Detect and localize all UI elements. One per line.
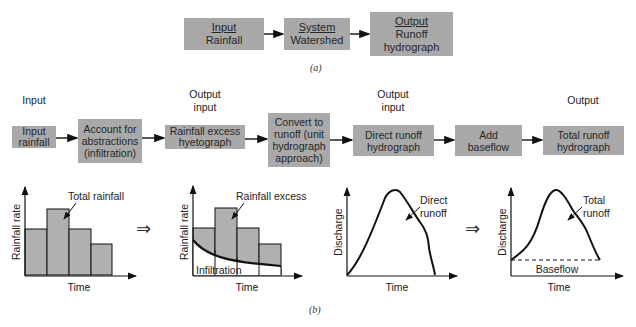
stage-label-line1: Output xyxy=(368,88,418,101)
box-input-rainfall-b: Input rainfall xyxy=(12,126,56,148)
box-convert-to-runoff: Convert to runoff (unit hydrograph appro… xyxy=(268,113,330,167)
box-line: Direct runoff xyxy=(365,129,422,141)
box-output-runoff: Output Runoff hydrograph xyxy=(370,12,453,56)
box-total-runoff-hydrograph: Total runoff hydrograph xyxy=(543,126,624,155)
box-heading: Output xyxy=(395,15,428,28)
box-text: Rainfall xyxy=(206,34,243,47)
box-line: hyetograph xyxy=(179,137,232,149)
chart1-ylabel: Rainfall rate xyxy=(10,204,22,260)
box-account-abstractions: Account for abstractions (infiltration) xyxy=(78,119,142,163)
chart2-xlabel: Time xyxy=(232,281,262,294)
annotation-line: Total xyxy=(583,194,610,207)
box-input-rainfall: Input Rainfall xyxy=(184,18,264,50)
box-line: Total runoff xyxy=(558,129,610,141)
box-line: hydrograph xyxy=(272,140,325,152)
box-system-watershed: System Watershed xyxy=(284,18,350,50)
stage-label-line1: Output xyxy=(180,88,230,101)
implies-arrow-icon: ⇒ xyxy=(465,218,480,239)
box-line: (infiltration) xyxy=(84,147,136,159)
stage-label-line2: input xyxy=(180,101,230,114)
stage-label-line1: Output xyxy=(558,94,608,107)
stage-label-line2: input xyxy=(368,101,418,114)
box-line: rainfall xyxy=(19,137,50,149)
implies-arrow-icon: ⇒ xyxy=(136,218,151,239)
box-line: hydrograph xyxy=(367,141,420,153)
box-line: abstractions xyxy=(82,135,139,147)
chart3-ylabel: Discharge xyxy=(332,208,344,255)
stage-label-output: Output xyxy=(558,94,608,107)
annotation-total-rainfall: Total rainfall xyxy=(68,190,124,203)
box-rainfall-excess-hyetograph: Rainfall excess hyetograph xyxy=(165,125,245,149)
chart4-ylabel: Discharge xyxy=(496,208,508,255)
box-line: approach) xyxy=(275,152,322,164)
chart1-xlabel: Time xyxy=(64,281,94,294)
chart4-xlabel: Time xyxy=(544,281,574,294)
box-text-line1: Runoff xyxy=(395,28,427,41)
box-line: runoff (unit xyxy=(274,128,324,140)
box-text: Watershed xyxy=(291,34,344,47)
annotation-baseflow: Baseflow xyxy=(535,263,579,276)
stage-label-output-input-2: Output input xyxy=(368,88,418,114)
chart3-xlabel: Time xyxy=(382,281,412,294)
box-heading: System xyxy=(299,21,336,34)
box-text-line2: hydrograph xyxy=(384,41,440,54)
annotation-line: runoff xyxy=(420,207,447,220)
annotation-direct-runoff: Direct runoff xyxy=(420,194,447,220)
box-line: baseflow xyxy=(468,141,509,153)
annotation-line: runoff xyxy=(583,207,610,220)
box-line: Convert to xyxy=(275,116,323,128)
box-line: Account for xyxy=(83,123,136,135)
annotation-infiltration: Infiltration xyxy=(196,264,242,277)
box-direct-runoff-hydrograph: Direct runoff hydrograph xyxy=(353,125,434,156)
caption-a: (a) xyxy=(310,62,322,73)
box-heading: Input xyxy=(212,21,236,34)
box-line: hydrograph xyxy=(557,141,610,153)
stage-label-line1: Input xyxy=(14,94,54,107)
box-add-baseflow: Add baseflow xyxy=(455,125,522,156)
chart2-ylabel: Rainfall rate xyxy=(178,204,190,260)
box-line: Add xyxy=(479,129,498,141)
stage-label-output-input-1: Output input xyxy=(180,88,230,114)
annotation-line: Direct xyxy=(420,194,447,207)
annotation-total-runoff: Total runoff xyxy=(583,194,610,220)
annotation-rainfall-excess: Rainfall excess xyxy=(236,190,307,203)
stage-label-input: Input xyxy=(14,94,54,107)
caption-b: (b) xyxy=(309,304,321,315)
